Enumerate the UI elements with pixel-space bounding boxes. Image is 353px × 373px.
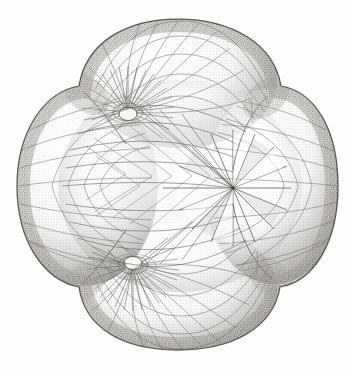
surface-model-illustration: [0, 0, 353, 373]
figure-plate: Die mathematischen Modelle der Flaechen: [0, 0, 353, 373]
